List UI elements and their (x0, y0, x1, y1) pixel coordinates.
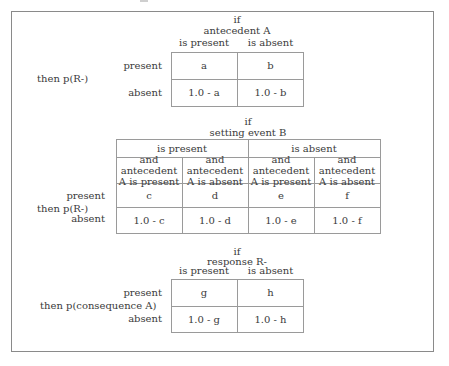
table2-col-header-4-line1: and antecedent (314, 154, 380, 176)
table2-cell-c: c (116, 183, 182, 207)
table2-cell-1-minus-f: 1.0 - f (314, 207, 380, 233)
table3-cell-1-minus-g: 1.0 - g (171, 306, 237, 332)
table1-cell-b: b (237, 52, 304, 79)
table1-row-header-present: present (110, 60, 162, 71)
table3-cell-h: h (237, 279, 304, 306)
table1-condition: antecedent A (187, 25, 287, 36)
cropped-artifact (140, 0, 148, 2)
table3-row-label: then p(consequence A) (40, 300, 156, 311)
table2-col-header-2: and antecedent A is absent (182, 157, 248, 183)
table2-condition: setting event B (198, 127, 298, 138)
table2-cell-f: f (314, 183, 380, 207)
table2-cell-1-minus-d: 1.0 - d (182, 207, 248, 233)
table2-cell-d: d (182, 183, 248, 207)
table3-cell-1-minus-h: 1.0 - h (237, 306, 304, 332)
table2-row-header-present: present (50, 190, 105, 201)
table2-col-header-1-line1: and antecedent (116, 154, 182, 176)
table2-col-header-3: and antecedent A is present (248, 157, 314, 183)
table2-col-header-4: and antecedent A is absent (314, 157, 380, 183)
table1-row-header-absent: absent (110, 87, 162, 98)
table1-cell-a: a (171, 52, 237, 79)
table1-col-header-absent: is absent (237, 37, 304, 48)
table3-row-header-present: present (110, 287, 162, 298)
table1-cell-1-minus-a: 1.0 - a (171, 79, 237, 106)
table2-cell-1-minus-c: 1.0 - c (116, 207, 182, 233)
table2-cell-e: e (248, 183, 314, 207)
table3-cell-g: g (171, 279, 237, 306)
table3-col-header-absent: is absent (237, 265, 304, 276)
table1-if-label: if (187, 14, 287, 25)
table3-col-header-present: is present (171, 265, 237, 276)
table2-if-label: if (198, 116, 298, 127)
table2-col-header-3-line1: and antecedent (248, 154, 314, 176)
table2-row-header-absent: absent (50, 213, 105, 224)
table2-col-header-2-line1: and antecedent (182, 154, 248, 176)
table1-cell-1-minus-b: 1.0 - b (237, 79, 304, 106)
table2-col-header-1: and antecedent A is present (116, 157, 182, 183)
table1-col-header-present: is present (171, 37, 237, 48)
table1-row-label: then p(R-) (37, 73, 88, 84)
table3-row-header-absent: absent (110, 313, 162, 324)
table2-cell-1-minus-e: 1.0 - e (248, 207, 314, 233)
